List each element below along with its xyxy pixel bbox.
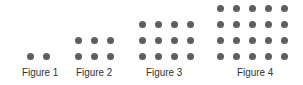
figure-3-label: Figure 3 bbox=[146, 66, 182, 78]
dot bbox=[43, 53, 50, 60]
dot bbox=[265, 21, 272, 28]
dot bbox=[233, 21, 240, 28]
dot bbox=[265, 37, 272, 44]
dot bbox=[171, 37, 178, 44]
dot bbox=[139, 37, 146, 44]
dot bbox=[139, 21, 146, 28]
dot bbox=[171, 21, 178, 28]
dot bbox=[233, 53, 240, 60]
dot bbox=[75, 53, 82, 60]
dot bbox=[217, 37, 224, 44]
dot bbox=[91, 53, 98, 60]
dot bbox=[27, 53, 34, 60]
dot bbox=[281, 37, 288, 44]
dot bbox=[155, 53, 162, 60]
figure-1-label: Figure 1 bbox=[22, 66, 58, 78]
figure-4-label: Figure 4 bbox=[237, 66, 273, 78]
dot bbox=[233, 37, 240, 44]
dot bbox=[155, 21, 162, 28]
dot bbox=[139, 53, 146, 60]
dot bbox=[187, 21, 194, 28]
dot bbox=[91, 37, 98, 44]
dot bbox=[249, 5, 256, 12]
dot bbox=[233, 5, 240, 12]
figure-2-label: Figure 2 bbox=[76, 66, 112, 78]
dot bbox=[171, 53, 178, 60]
dot bbox=[265, 5, 272, 12]
dot bbox=[265, 53, 272, 60]
dot bbox=[249, 37, 256, 44]
dot bbox=[217, 5, 224, 12]
dot bbox=[249, 53, 256, 60]
dot bbox=[281, 53, 288, 60]
dot bbox=[281, 21, 288, 28]
dot bbox=[217, 21, 224, 28]
dot bbox=[187, 53, 194, 60]
dot bbox=[155, 37, 162, 44]
dot bbox=[75, 37, 82, 44]
dot bbox=[217, 53, 224, 60]
dot bbox=[187, 37, 194, 44]
dot bbox=[107, 37, 114, 44]
dot bbox=[107, 53, 114, 60]
dot bbox=[249, 21, 256, 28]
dot-pattern-diagram: Figure 1 Figure 2 Figure 3 Figure 4 bbox=[0, 0, 303, 85]
dot bbox=[281, 5, 288, 12]
